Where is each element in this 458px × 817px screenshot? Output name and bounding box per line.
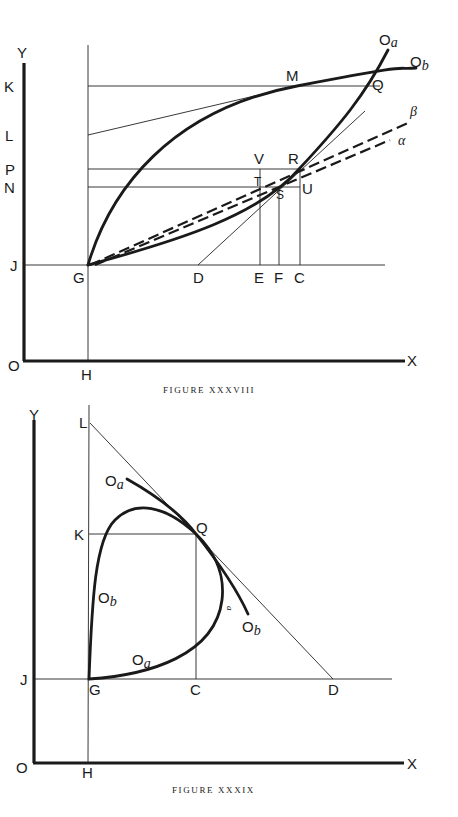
label-c: C [294,269,305,286]
x-axis-label: X [407,755,417,772]
label-j: J [10,257,18,274]
label-m: M [286,67,299,84]
label-ob-left: Ob [98,589,117,609]
origin-label: O [8,357,20,374]
label-p: P [5,161,15,178]
label-alpha: α [398,133,406,148]
label-j: J [20,671,28,688]
label-s: S [276,188,284,202]
label-t: T [254,175,262,189]
label-f: F [274,269,283,286]
label-c: C [190,681,201,698]
label-g: G [73,269,85,286]
vertical-line-h [88,405,89,763]
label-small-a: a [225,606,235,611]
label-oa-bottom: Oa [132,651,151,671]
x-axis-label: X [407,352,417,369]
caption-figure-xxxix: FIGURE XXXIX [172,785,255,795]
label-u: U [302,180,313,197]
label-ob: Ob [410,53,429,73]
label-beta: β [409,104,417,119]
curve-ob [88,68,416,265]
caption-figure-xxxviii: FIGURE XXXVIII [163,385,255,395]
label-r: R [288,150,299,167]
label-h: H [81,366,92,383]
label-oa-top: Oa [105,472,124,492]
origin-label: O [16,759,28,776]
label-d: D [193,269,204,286]
label-d: D [328,681,339,698]
y-axis-label: Y [29,406,39,423]
figure-xxxviii: Y X O K L P N J G H M Q R U V T S D E [4,31,429,395]
label-l: L [79,414,87,431]
label-k: K [4,78,14,95]
label-q: Q [372,76,384,93]
label-oa: Oa [379,31,398,50]
label-q: Q [196,519,208,536]
dashed-line-alpha [95,140,390,265]
label-h: H [82,764,93,781]
curve-oa-ob [127,479,248,614]
y-axis-label: Y [17,44,27,61]
label-e: E [254,269,264,286]
label-l: L [5,127,13,144]
diagram-canvas: Y X O K L P N J G H M Q R U V T S D E [0,0,458,817]
figure-xxxix: Y X O L K Q J G C D H Oa Ob Oa Ob a FIGU… [16,405,417,795]
label-g: G [89,681,101,698]
label-ob-right: Ob [242,618,261,638]
dashed-line-beta [90,122,410,265]
label-v: V [254,150,264,167]
label-n: N [4,179,15,196]
curve-oa [88,50,388,265]
label-k: K [74,526,84,543]
